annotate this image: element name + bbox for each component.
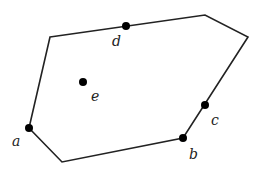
label-c: c	[211, 112, 219, 128]
label-a: a	[12, 133, 20, 149]
convex-polygon	[29, 15, 248, 162]
point-e	[79, 78, 87, 86]
label-e: e	[91, 88, 99, 104]
point-c	[201, 101, 209, 109]
point-d	[122, 22, 130, 30]
point-a	[25, 124, 33, 132]
diagram-canvas: a b c d e	[0, 0, 260, 170]
polygon-diagram: a b c d e	[0, 0, 260, 170]
point-b	[179, 134, 187, 142]
label-b: b	[189, 146, 198, 162]
label-d: d	[112, 33, 121, 49]
